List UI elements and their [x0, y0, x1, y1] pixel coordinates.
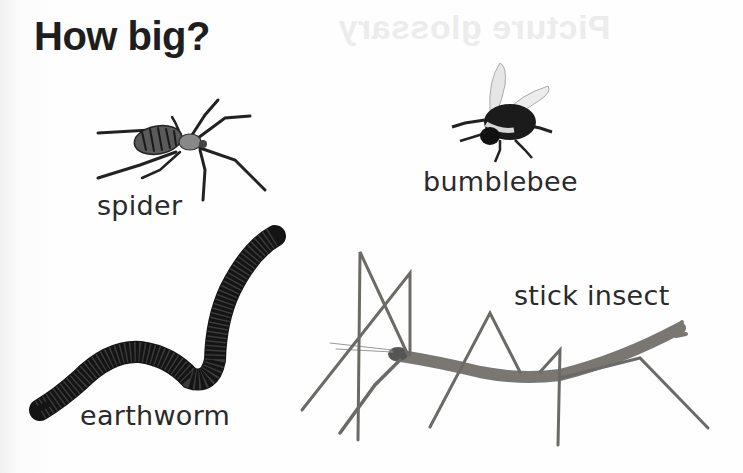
bumblebee-image — [452, 63, 552, 162]
earthworm-image — [36, 236, 275, 410]
bumblebee-label: bumblebee — [423, 166, 578, 197]
stick-insect-label: stick insect — [514, 280, 670, 311]
spider-label: spider — [97, 190, 182, 221]
book-page: Picture glossary How big? — [0, 0, 743, 473]
spider-image — [98, 100, 265, 200]
earthworm-label: earthworm — [80, 400, 230, 431]
